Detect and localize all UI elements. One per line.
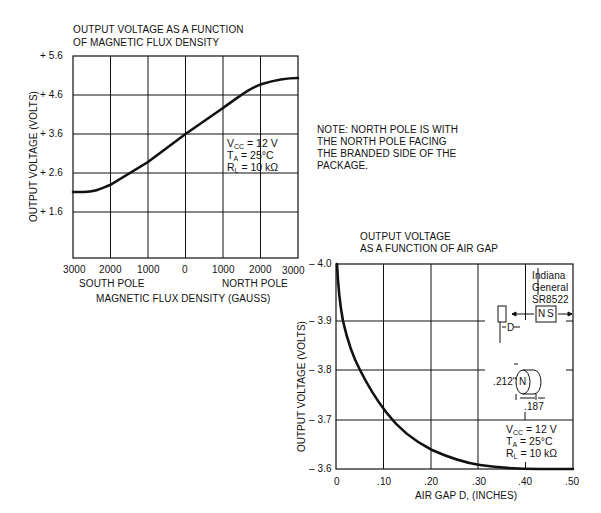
y-tick: – 3.8 <box>309 364 332 376</box>
x-tick: 3000 <box>63 264 86 276</box>
rl-condition: RL = 10 kΩ <box>227 161 278 173</box>
magnet-s-label: S <box>547 308 554 320</box>
x-tick: .40 <box>518 476 532 488</box>
x-tick: 2000 <box>249 264 272 276</box>
chart-flux-x-label: MAGNETIC FLUX DENSITY (GAUSS) <box>96 293 270 305</box>
note-line: THE BRANDED SIDE OF THE <box>317 148 456 160</box>
south-pole-label: SOUTH POLE <box>79 278 144 290</box>
chart-airgap-y-label: OUTPUT VOLTAGE (VOLTS) <box>296 321 307 452</box>
gap-d-label: D <box>507 322 514 334</box>
chart-airgap-conditions: VCC = 12 V TA = 25°C RL = 10 kΩ <box>506 423 557 459</box>
y-tick: + 4.6 <box>40 89 63 101</box>
cylinder-face-label: N <box>519 376 526 388</box>
note-line: NOTE: NORTH POLE IS WITH <box>317 124 458 136</box>
x-tick: .50 <box>565 476 579 488</box>
north-pole-label: NORTH POLE <box>222 278 288 290</box>
y-tick: + 2.6 <box>40 167 63 179</box>
y-tick: – 3.6 <box>309 463 332 475</box>
y-tick: + 3.6 <box>40 128 63 140</box>
brand-line: General <box>532 282 568 294</box>
x-tick: 1000 <box>137 264 160 276</box>
x-tick: .20 <box>424 476 438 488</box>
vcc-condition: VCC = 12 V <box>227 137 278 149</box>
chart-airgap-x-label: AIR GAP D, (INCHES) <box>415 490 517 502</box>
vcc-condition: VCC = 12 V <box>506 423 557 435</box>
y-tick: – 3.7 <box>309 414 332 426</box>
diameter-label: .212" <box>493 376 517 388</box>
note-line: THE NORTH POLE FACING <box>317 136 447 148</box>
x-tick: .30 <box>472 476 486 488</box>
note-line: PACKAGE. <box>317 160 368 172</box>
x-tick: 2000 <box>99 264 122 276</box>
x-tick: 3000 <box>282 265 305 277</box>
x-tick: 0 <box>182 264 188 276</box>
y-tick: – 4.0 <box>309 258 332 270</box>
y-tick: + 1.6 <box>40 206 63 218</box>
chart-flux-y-label: OUTPUT VOLTAGE (VOLTS) <box>28 91 39 222</box>
x-tick: .10 <box>377 476 391 488</box>
y-tick: + 5.6 <box>40 50 63 62</box>
length-label: .187 <box>524 401 544 413</box>
brand-line: Indiana <box>532 270 566 282</box>
y-tick: – 3.9 <box>309 315 332 327</box>
chart-airgap-title-line2: AS A FUNCTION OF AIR GAP <box>360 243 498 255</box>
chart-airgap-title-line1: OUTPUT VOLTAGE <box>360 231 451 243</box>
ta-condition: TA = 25°C <box>506 435 557 447</box>
magnet-n-label: N <box>538 308 545 320</box>
brand-line: SR8522 <box>532 294 569 306</box>
ta-condition: TA = 25°C <box>227 149 278 161</box>
x-tick: 0 <box>334 476 340 488</box>
x-tick: 1000 <box>212 264 235 276</box>
chart-flux-conditions: VCC = 12 V TA = 25°C RL = 10 kΩ <box>227 137 278 173</box>
rl-condition: RL = 10 kΩ <box>506 447 557 459</box>
